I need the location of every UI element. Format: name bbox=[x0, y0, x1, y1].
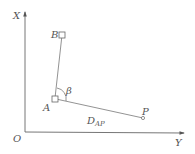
distance-label-sub: AP bbox=[94, 120, 105, 128]
point-p-label: P bbox=[141, 106, 149, 117]
point-a-marker bbox=[52, 96, 58, 102]
point-b-label: B bbox=[50, 29, 58, 40]
diagram-canvas: X Y O B A P β DAP bbox=[0, 0, 195, 154]
y-axis-label: Y bbox=[175, 137, 183, 148]
distance-label: DAP bbox=[86, 115, 105, 128]
point-b-marker bbox=[59, 32, 65, 38]
angle-beta-label: β bbox=[65, 85, 72, 96]
y-axis-horizontal bbox=[25, 132, 184, 133]
distance-label-main: D bbox=[86, 115, 95, 126]
line-a-p bbox=[56, 99, 143, 118]
origin-label: O bbox=[13, 133, 21, 144]
point-a-label: A bbox=[42, 102, 50, 113]
x-axis-label: X bbox=[12, 10, 21, 21]
